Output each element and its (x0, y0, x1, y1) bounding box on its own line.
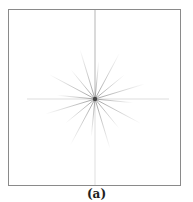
starburst-ray (95, 99, 119, 128)
starburst-center (93, 97, 97, 101)
starburst-ray (45, 99, 95, 114)
figure-caption: (a) (0, 186, 193, 202)
starburst-ray (95, 75, 124, 99)
starburst-ray (71, 70, 95, 99)
figure-panel (8, 9, 181, 186)
starburst-ray (95, 84, 145, 99)
starburst-ray (95, 99, 141, 124)
starburst-ray (80, 49, 95, 99)
starburst-ray (70, 99, 95, 145)
starburst-ray (49, 74, 95, 99)
starburst-ray (95, 53, 120, 99)
starburst-ray (66, 99, 95, 123)
starburst-plot (9, 10, 180, 185)
starburst-ray (95, 99, 110, 149)
